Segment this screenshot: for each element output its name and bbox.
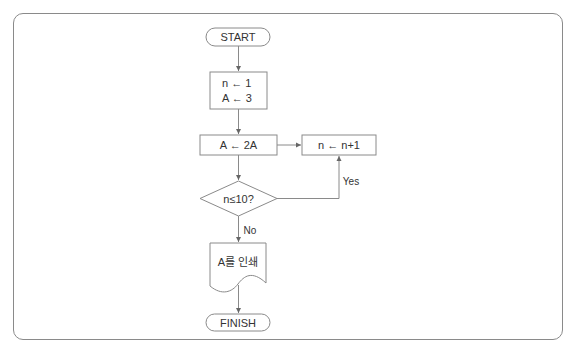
init-label: n ← 1 A ← 3 — [222, 76, 252, 106]
init-line-1: n ← 1 — [222, 76, 252, 91]
print-label: A를 인쇄 — [218, 257, 258, 268]
increment-label: n ← n+1 — [318, 140, 360, 151]
yes-edge-label: Yes — [343, 177, 359, 187]
flowchart-canvas — [0, 0, 576, 351]
condition-label: n≤10? — [223, 193, 254, 204]
no-edge-label: No — [244, 226, 257, 236]
edge-condition-increment-yes — [277, 156, 339, 199]
finish-label: FINISH — [220, 317, 256, 328]
double-label: A ← 2A — [220, 140, 257, 151]
start-label: START — [220, 32, 255, 43]
init-line-2: A ← 3 — [222, 91, 252, 106]
